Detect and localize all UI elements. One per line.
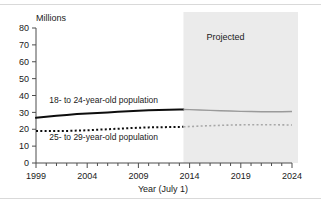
x-tick-label: 2009	[128, 171, 148, 181]
x-tick-label: 2004	[77, 171, 97, 181]
y-tick-label: 60	[19, 57, 29, 67]
x-tick-label: 2014	[180, 171, 200, 181]
y-tick-label: 40	[19, 91, 29, 101]
chart-figure: 01020304050607080 1999200420092014201920…	[0, 0, 321, 204]
y-tick-label: 20	[19, 124, 29, 134]
y-tick-label: 80	[19, 23, 29, 33]
y-tick-label: 50	[19, 74, 29, 84]
x-axis-tick-labels: 199920042009201420192024	[26, 171, 302, 181]
x-axis-tick-marks	[36, 163, 292, 168]
series-18-24-historical-line	[36, 110, 183, 118]
y-tick-label: 10	[19, 141, 29, 151]
y-axis-unit-label: Millions	[36, 13, 67, 23]
series-label-25-29: 25- to 29-year-old population	[49, 132, 158, 142]
y-tick-label: 0	[24, 158, 29, 168]
y-tick-label: 30	[19, 108, 29, 118]
series-25-29-historical-line	[36, 127, 183, 131]
projected-region-label: Projected	[206, 32, 244, 42]
x-tick-label: 2024	[282, 171, 302, 181]
line-chart-canvas: 01020304050607080 1999200420092014201920…	[0, 0, 321, 204]
x-tick-label: 2019	[231, 171, 251, 181]
x-tick-label: 1999	[26, 171, 46, 181]
y-axis-tick-labels: 01020304050607080	[19, 23, 29, 168]
y-tick-label: 70	[19, 40, 29, 50]
x-axis-title: Year (July 1)	[138, 184, 188, 194]
series-label-18-24: 18- to 24-year-old population	[49, 95, 158, 105]
y-axis-tick-marks	[32, 28, 36, 163]
